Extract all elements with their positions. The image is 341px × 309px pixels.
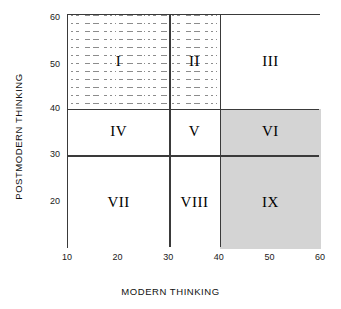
x-tick-label-20: 20 [113,252,123,262]
y-axis-title: POSTMODERN THINKING [13,57,24,217]
cell-label-iii: III [262,54,279,69]
matrix-cell-vi[interactable]: VI [220,109,321,156]
gridline-y-30 [68,155,319,156]
y-tick-label-60: 60 [34,12,60,22]
y-tick-label-50: 50 [34,59,60,69]
cell-label-vii: VII [107,195,129,210]
x-tick-label-40: 40 [214,252,224,262]
plot-area: I II III IV V VI VII VIII IX [67,14,320,248]
x-tick-label-50: 50 [264,252,274,262]
cell-label-i: I [116,54,122,69]
y-tick-label-20: 20 [34,196,60,206]
y-tick-label-30: 30 [34,149,60,159]
cell-label-viii: VIII [181,195,209,210]
gridline-y-40 [68,109,319,110]
matrix-cell-v[interactable]: V [169,109,220,156]
cell-label-ii: II [189,54,200,69]
x-axis-title: MODERN THINKING [0,286,341,297]
matrix-cell-ix[interactable]: IX [220,155,321,249]
matrix-cell-ii[interactable]: II [169,15,220,109]
y-tick-label-40: 40 [34,103,60,113]
matrix-cell-iii[interactable]: III [220,15,321,109]
x-tick-label-10: 10 [62,252,72,262]
matrix-chart-figure: I II III IV V VI VII VIII IX [0,0,341,309]
x-tick-label-30: 30 [163,252,173,262]
cell-label-ix: IX [262,195,279,210]
cell-label-iv: IV [110,124,127,139]
matrix-cell-iv[interactable]: IV [68,109,169,156]
matrix-cell-i[interactable]: I [68,15,169,109]
matrix-cell-viii[interactable]: VIII [169,155,220,249]
gridline-x-30 [169,15,170,247]
cell-label-v: V [189,124,200,139]
cell-label-vi: VI [262,124,279,139]
x-tick-label-60: 60 [315,252,325,262]
gridline-x-40 [220,15,221,247]
matrix-cell-vii[interactable]: VII [68,155,169,249]
